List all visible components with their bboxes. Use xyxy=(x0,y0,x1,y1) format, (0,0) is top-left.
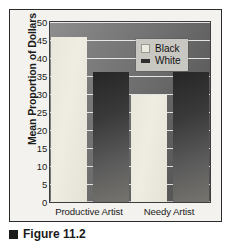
y-axis-tick-40: 40 xyxy=(23,54,47,63)
chart-legend: Black White xyxy=(136,39,188,71)
figure-caption-label: Figure 11.2 xyxy=(23,229,86,241)
y-axis-tick-15: 15 xyxy=(23,144,47,153)
figure-caption-text: Figure 11.2 xyxy=(9,229,86,241)
legend-swatch-black-icon xyxy=(141,44,150,53)
legend-item-white[interactable]: White xyxy=(141,55,181,66)
y-axis-tick-50: 50 xyxy=(23,18,47,27)
y-axis-tick-20: 20 xyxy=(23,126,47,135)
x-axis-tick-productive-artist: Productive Artist xyxy=(49,205,129,219)
plot-area: Black White xyxy=(49,21,211,203)
y-axis-tick-5: 5 xyxy=(23,180,47,189)
square-bullet-icon xyxy=(9,230,18,239)
x-axis-tick-labels: Productive ArtistNeedy Artist xyxy=(49,205,211,221)
legend-item-black[interactable]: Black xyxy=(141,43,181,54)
legend-label-black: Black xyxy=(155,43,179,54)
bar-needy-artist-white[interactable] xyxy=(173,72,209,202)
y-axis-tick-0: 0 xyxy=(23,198,47,207)
bar-productive-artist-white[interactable] xyxy=(93,72,129,202)
figure-root: Mean Proportion of Dollars 5045403530252… xyxy=(0,0,234,247)
legend-swatch-white-icon xyxy=(141,59,150,63)
y-axis-tick-labels: 50454035302520151050 xyxy=(23,21,47,203)
chart-card: Mean Proportion of Dollars 5045403530252… xyxy=(9,9,222,222)
figure-caption: Figure 11.2 xyxy=(9,229,222,247)
y-axis-tick-30: 30 xyxy=(23,90,47,99)
y-axis-tick-35: 35 xyxy=(23,72,47,81)
x-axis-tick-needy-artist: Needy Artist xyxy=(129,205,209,219)
y-axis-tick-25: 25 xyxy=(23,108,47,117)
legend-label-white: White xyxy=(155,55,181,66)
y-axis-tick-10: 10 xyxy=(23,162,47,171)
y-axis-tick-45: 45 xyxy=(23,36,47,45)
bar-productive-artist-black[interactable] xyxy=(51,37,87,202)
bar-needy-artist-black[interactable] xyxy=(131,95,167,202)
